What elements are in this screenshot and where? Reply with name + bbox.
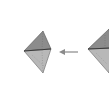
diagram-canvas — [0, 0, 109, 102]
arrow-left-icon — [59, 49, 78, 55]
left-lower-face — [24, 49, 51, 73]
right-lower-face — [88, 48, 109, 73]
left-upper-face — [24, 31, 51, 51]
right-upper-face — [88, 29, 109, 49]
right-bipyramid-shape — [88, 29, 109, 73]
left-bipyramid-shape — [24, 31, 51, 73]
